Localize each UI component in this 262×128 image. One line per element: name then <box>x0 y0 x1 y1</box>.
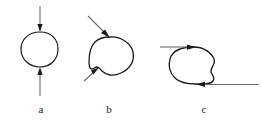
panel-b-group <box>84 16 133 81</box>
panel-a-bottom-arrowhead-icon <box>37 67 42 75</box>
panel-a-group <box>21 6 58 96</box>
panel-b-lower-arrow-shaft <box>84 72 94 81</box>
panel-b-upper-arrow-shaft <box>88 16 104 32</box>
panel-a-loop-path <box>21 32 58 67</box>
figure-panel: a b c <box>0 0 262 128</box>
figure-label-a: a <box>31 104 51 115</box>
panel-c-group <box>160 45 259 87</box>
panel-c-left-arrowhead-icon <box>187 45 196 50</box>
figure-label-b: b <box>99 104 119 115</box>
panel-a-top-arrowhead-icon <box>37 24 42 32</box>
panel-c-loop-path <box>169 47 214 84</box>
figure-label-c: c <box>194 104 214 115</box>
panel-c-right-arrowhead-icon <box>196 82 205 87</box>
